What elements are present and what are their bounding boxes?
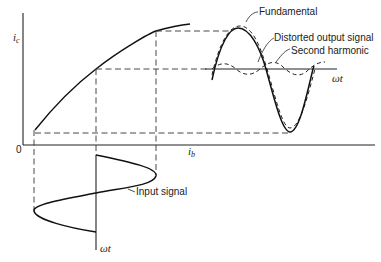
fundamental-label: Fundamental	[259, 6, 317, 17]
input-time-label: ωt	[100, 242, 112, 254]
second-harmonic-curve	[212, 62, 325, 75]
distorted-label: Distorted output signal	[274, 32, 374, 43]
ic-label: ic	[13, 31, 20, 45]
diagram-canvas: ic ib 0 ωt ωt Fundamental Distorted outp…	[0, 0, 381, 262]
second-harmonic-leader	[276, 49, 290, 62]
input-signal-label: Input signal	[136, 186, 187, 197]
output-time-label: ωt	[332, 72, 344, 84]
input-leader	[128, 189, 135, 192]
fundamental-leader	[246, 12, 258, 22]
origin-label: 0	[16, 144, 22, 155]
second-harmonic-label: Second harmonic	[291, 45, 369, 56]
transfer-curve	[35, 24, 190, 130]
distortion-diagram: ic ib 0 ωt ωt Fundamental Distorted outp…	[0, 0, 381, 262]
distorted-output-curve	[212, 28, 314, 132]
ib-label: ib	[188, 145, 195, 159]
